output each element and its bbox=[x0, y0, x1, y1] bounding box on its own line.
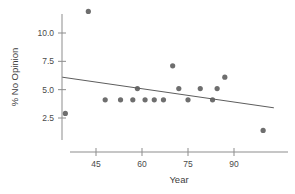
x-tick-label: 90 bbox=[229, 159, 239, 169]
data-point bbox=[118, 97, 123, 102]
y-tick-label: 5.0 bbox=[42, 85, 54, 95]
data-point-series bbox=[63, 9, 266, 133]
data-point bbox=[103, 97, 108, 102]
scatter-plot-figure: 2.55.07.510.0 45607590 Year % No Opinion bbox=[0, 0, 295, 194]
data-point bbox=[63, 111, 68, 116]
y-tick-label: 2.5 bbox=[42, 113, 54, 123]
y-axis-tick-labels: 2.55.07.510.0 bbox=[37, 28, 54, 123]
data-point bbox=[210, 97, 215, 102]
x-tick-label: 60 bbox=[137, 159, 147, 169]
y-axis-group: 2.55.07.510.0 bbox=[37, 14, 66, 140]
data-point bbox=[152, 97, 157, 102]
plot-canvas: 2.55.07.510.0 45607590 Year % No Opinion bbox=[0, 0, 295, 194]
trend-line bbox=[62, 77, 274, 108]
x-axis-tick-labels: 45607590 bbox=[91, 159, 239, 169]
data-point bbox=[185, 97, 190, 102]
data-point bbox=[198, 86, 203, 91]
x-axis-title: Year bbox=[169, 174, 188, 185]
x-axis-group: 45607590 bbox=[70, 148, 288, 169]
y-axis-title: % No Opinion bbox=[9, 48, 20, 107]
x-tick-label: 45 bbox=[91, 159, 101, 169]
data-point bbox=[215, 86, 220, 91]
data-point bbox=[86, 9, 91, 14]
data-point bbox=[222, 75, 227, 80]
data-point bbox=[176, 86, 181, 91]
data-point bbox=[142, 97, 147, 102]
x-tick-label: 75 bbox=[183, 159, 193, 169]
data-point bbox=[261, 128, 266, 133]
data-point bbox=[170, 63, 175, 68]
y-tick-label: 10.0 bbox=[37, 28, 54, 38]
data-point bbox=[161, 97, 166, 102]
data-point bbox=[130, 97, 135, 102]
y-tick-label: 7.5 bbox=[42, 56, 54, 66]
